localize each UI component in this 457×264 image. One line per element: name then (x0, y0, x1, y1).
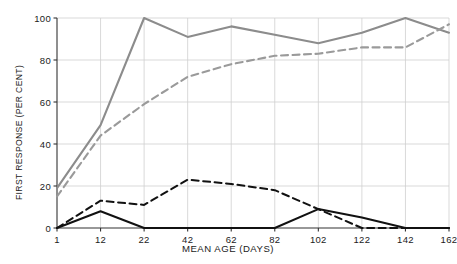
y-tick-label: 0 (0, 223, 51, 234)
series-line-grey-solid (57, 18, 449, 188)
series-line-grey-dashed (57, 24, 449, 196)
series-line-black-dashed (57, 180, 449, 228)
y-tick-label: 80 (0, 55, 51, 66)
y-tick-label: 100 (0, 13, 51, 24)
data-series-group (57, 18, 449, 228)
y-axis-title: FIRST RESPONSE (PER CENT) (14, 65, 24, 200)
gridlines-group (57, 18, 449, 228)
y-tick-label: 40 (0, 139, 51, 150)
y-tick-label: 60 (0, 97, 51, 108)
y-tick-label: 20 (0, 181, 51, 192)
x-axis-title: MEAN AGE (DAYS) (0, 243, 456, 254)
series-line-black-solid (57, 209, 449, 228)
axis-lines-group (54, 18, 450, 232)
